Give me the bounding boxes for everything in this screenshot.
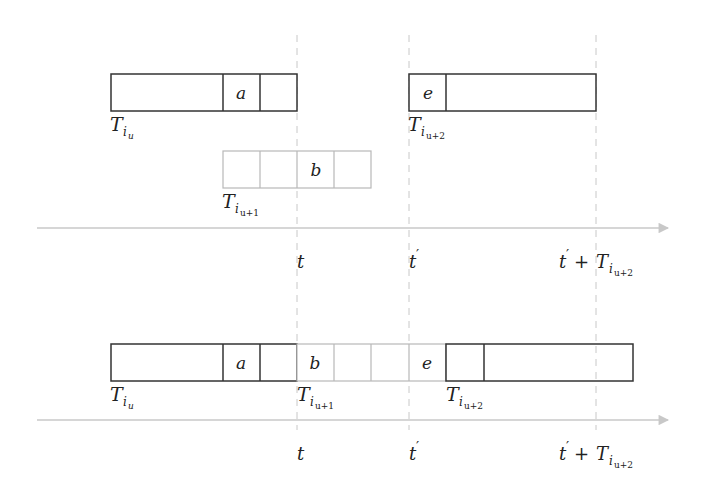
- bottom-panel: a T i u b e T i u+1 T i u+2: [37, 344, 668, 470]
- svg-text:i: i: [310, 395, 314, 409]
- svg-text:T: T: [110, 383, 124, 405]
- svg-text:u+2: u+2: [614, 460, 633, 470]
- cell-label-a: a: [236, 353, 246, 373]
- svg-text:u: u: [128, 131, 134, 141]
- tick-label-t-prime: t ′: [409, 247, 419, 272]
- task-block-iu2-merged: [446, 344, 633, 381]
- svg-text:T: T: [297, 383, 311, 405]
- svg-text:u: u: [128, 401, 134, 411]
- svg-text:i: i: [609, 262, 613, 276]
- task-block-iu-merged: [111, 344, 297, 381]
- task-block-iu1: [223, 151, 371, 188]
- tick-label-t-prime: t ′: [409, 439, 419, 464]
- svg-text:i: i: [421, 125, 425, 139]
- svg-text:u+2: u+2: [426, 131, 445, 141]
- cell-label-e: e: [423, 83, 433, 103]
- task-block-iu: [111, 74, 297, 111]
- task-label-iu2: T i u+2: [446, 383, 483, 411]
- cell-label-b: b: [311, 160, 322, 180]
- svg-text:′: ′: [416, 247, 419, 263]
- svg-text:T: T: [596, 443, 610, 464]
- svg-text:t: t: [297, 251, 305, 272]
- svg-text:i: i: [609, 454, 613, 468]
- task-label-iu: T i u: [110, 383, 134, 411]
- tick-label-t: t: [297, 443, 305, 464]
- svg-text:u+2: u+2: [464, 401, 483, 411]
- svg-text:i: i: [123, 125, 127, 139]
- svg-text:i: i: [235, 202, 239, 216]
- svg-text:+: +: [574, 251, 589, 272]
- svg-text:T: T: [446, 383, 460, 405]
- task-label-iu2: T i u+2: [408, 113, 445, 141]
- task-block-iu2: [409, 74, 596, 111]
- svg-text:+: +: [574, 443, 589, 464]
- cell-label-b: b: [310, 353, 321, 373]
- svg-text:′: ′: [566, 439, 569, 455]
- top-panel: a T i u b T i u+1 e T i u+2: [37, 74, 668, 278]
- task-label-iu1: T i u+1: [297, 383, 334, 411]
- svg-text:u+1: u+1: [315, 401, 334, 411]
- svg-text:t: t: [297, 443, 305, 464]
- tick-label-t: t: [297, 251, 305, 272]
- cell-label-a: a: [236, 83, 246, 103]
- svg-text:T: T: [222, 190, 236, 212]
- svg-text:i: i: [123, 395, 127, 409]
- svg-text:u+1: u+1: [240, 208, 259, 218]
- schedule-diagram: a T i u b T i u+1 e T i u+2: [0, 0, 704, 493]
- svg-text:′: ′: [416, 439, 419, 455]
- task-label-iu1: T i u+1: [222, 190, 259, 218]
- cell-label-e: e: [422, 353, 432, 373]
- tick-label-t-prime-plus-T: t ′ + T i u+2: [559, 439, 633, 470]
- svg-text:T: T: [408, 113, 422, 135]
- task-label-iu: T i u: [110, 113, 134, 141]
- svg-text:u+2: u+2: [614, 268, 633, 278]
- svg-text:i: i: [459, 395, 463, 409]
- svg-text:′: ′: [566, 247, 569, 263]
- svg-text:T: T: [110, 113, 124, 135]
- svg-text:T: T: [596, 251, 610, 272]
